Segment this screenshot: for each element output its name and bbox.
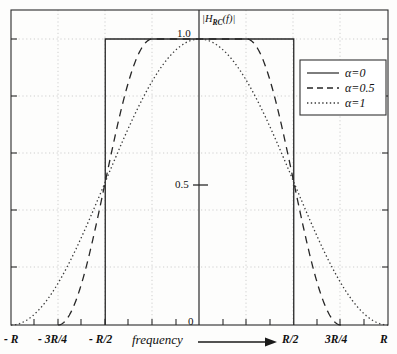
x-tick-label-R: R <box>380 334 388 346</box>
x-tick-label-R-2: R/2 <box>282 334 299 346</box>
legend-item-alpha-0: α=0 <box>345 66 365 81</box>
y-tick-label-0p5: 0.5 <box>175 179 189 190</box>
y-axis-title-tail: (f)| <box>223 13 236 24</box>
y-tick-label-0: 0 <box>188 316 194 327</box>
frequency-arrow <box>198 338 277 347</box>
legend-item-alpha-1: α=1 <box>345 96 365 111</box>
legend-item-alpha-0p5: α=0.5 <box>345 81 374 96</box>
chart-canvas <box>0 0 397 354</box>
y-axis-title-main: |H <box>202 13 212 24</box>
x-tick-label-3R-4: 3R/4 <box>325 334 347 346</box>
y-axis-title-sub: RC <box>212 18 222 27</box>
x-tick-label-minus-3R-4: - 3R/4 <box>38 334 67 346</box>
x-axis-title: frequency <box>132 333 183 346</box>
y-axis-title: |HRC(f)| <box>202 14 235 27</box>
figure-raised-cosine-spectrum: |HRC(f)| 1.0 0.5 0 - R - 3R/4 - R/2 R/2 … <box>0 0 397 354</box>
x-tick-label-minus-R-2: - R/2 <box>89 334 112 346</box>
y-axis-ticks <box>11 39 17 267</box>
x-tick-label-minus-R: - R <box>4 334 18 346</box>
y-tick-label-1: 1.0 <box>177 28 191 39</box>
